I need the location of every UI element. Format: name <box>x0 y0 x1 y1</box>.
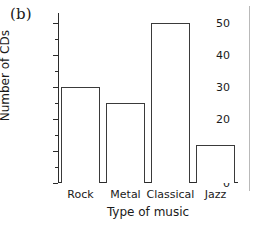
figure-right-edge <box>249 6 250 191</box>
x-category-label-jazz: Jazz <box>205 188 227 201</box>
y-tick-minor <box>55 71 58 72</box>
bar-jazz <box>196 145 235 183</box>
bar-metal <box>106 103 145 183</box>
y-tick-major <box>53 23 58 24</box>
x-category-label-rock: Rock <box>67 188 93 201</box>
bar-rock <box>61 87 100 183</box>
bar-classical <box>151 23 190 183</box>
x-category-label-classical: Classical <box>147 188 195 201</box>
x-category-label-metal: Metal <box>110 188 140 201</box>
y-tick-label: 20 <box>216 113 230 124</box>
panel-label: (b) <box>10 5 32 23</box>
y-axis-title: Number of CDs <box>0 30 12 121</box>
y-tick-minor <box>55 103 58 104</box>
y-axis-line <box>58 13 59 183</box>
y-tick-label: 50 <box>216 17 230 28</box>
y-tick-major <box>53 183 58 184</box>
plot-area: 01020304050 <box>58 13 238 183</box>
y-tick-minor <box>55 167 58 168</box>
y-tick-major <box>53 119 58 120</box>
y-tick-minor <box>55 135 58 136</box>
y-tick-label: 30 <box>216 81 230 92</box>
y-tick-major <box>53 87 58 88</box>
y-tick-label: 40 <box>216 49 230 60</box>
chart-figure: (b) 01020304050 RockMetalClassicalJazz N… <box>0 0 260 230</box>
x-axis-title: Type of music <box>58 205 238 219</box>
y-tick-minor <box>55 39 58 40</box>
y-tick-major <box>53 55 58 56</box>
y-tick-major <box>53 151 58 152</box>
